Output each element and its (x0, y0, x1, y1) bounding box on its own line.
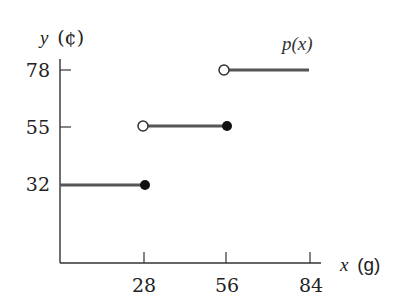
step-chart: 78 55 32 28 56 84 y (¢) x (g) p(x) (0, 0, 406, 304)
x-axis-var: x (339, 254, 349, 275)
y-tick-label-55: 55 (26, 116, 50, 138)
x-tick-label-28: 28 (132, 274, 156, 296)
y-axis-var: y (38, 27, 49, 48)
closed-point-56-55 (222, 121, 232, 131)
function-label: p(x) (280, 33, 313, 55)
x-tick-label-56: 56 (215, 274, 239, 296)
y-axis-label: y (¢) (38, 26, 84, 48)
x-axis-unit: (g) (357, 254, 380, 275)
y-tick-label-32: 32 (26, 173, 50, 195)
y-tick-label-78: 78 (26, 59, 50, 81)
x-tick-label-84: 84 (299, 274, 323, 296)
closed-point-28-32 (140, 180, 150, 190)
y-axis-unit: (¢) (57, 26, 84, 48)
open-point-28-55 (138, 121, 148, 131)
x-axis-label: x (g) (339, 254, 380, 275)
open-point-56-78 (219, 65, 229, 75)
